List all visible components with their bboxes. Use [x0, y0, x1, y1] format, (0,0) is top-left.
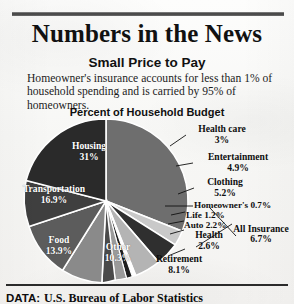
pie-label-other: Other 10.3%: [89, 242, 147, 263]
pie-label-housing: Housing 31%: [44, 141, 134, 162]
article-headline: Small Price to Pay: [0, 55, 294, 70]
pie-label-life: Life 1.2%: [186, 210, 225, 221]
pie-label-transportation: Transportation 16.9%: [2, 184, 106, 205]
pie-label-retirement: Retirement 8.1%: [140, 254, 218, 275]
pie-label-clothing: Clothing 5.2%: [194, 177, 256, 198]
pie-label-life-name: Life: [186, 210, 202, 220]
footer-rule: [6, 284, 288, 286]
pie-chart: Housing 31% Transportation 16.9% Food 13…: [0, 116, 294, 286]
pie-label-health-care: Health care 3%: [186, 124, 258, 145]
footer-data-label: DATA:: [6, 292, 40, 304]
newspaper-infographic: Numbers in the News Small Price to Pay H…: [0, 0, 294, 304]
pie-label-food: Food 13.9%: [28, 235, 90, 256]
masthead-rule: [12, 12, 284, 16]
masthead-title: Numbers in the News: [0, 20, 294, 48]
pie-label-life-value: 1.2%: [204, 210, 225, 220]
pie-label-homeowners-value: 0.7%: [250, 200, 271, 210]
pie-label-all-insurance: All Insurance 6.7%: [230, 224, 292, 244]
pie-label-homeowners-name: Homeowner's: [194, 200, 248, 210]
pie-label-health: Health 2.6%: [184, 230, 234, 251]
pie-label-homeowners: Homeowner's 0.7%: [194, 200, 271, 211]
footer-source: DATA: U.S. Bureau of Labor Statistics: [6, 288, 288, 304]
pie-label-entertainment: Entertainment 4.9%: [192, 152, 284, 173]
leader-health-care: [170, 135, 186, 146]
footer-source-name: U.S. Bureau of Labor Statistics: [44, 291, 203, 304]
